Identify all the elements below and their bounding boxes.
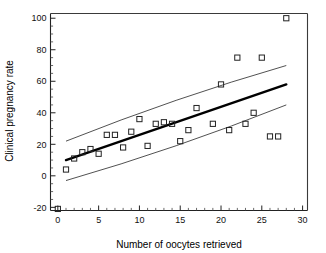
y-tick-label: 0 xyxy=(41,171,46,181)
x-tick-label: 0 xyxy=(55,215,60,225)
x-tick-label: 20 xyxy=(216,215,226,225)
y-axis-title: Clinical pregnancy rate xyxy=(4,60,15,162)
y-tick-label: -20 xyxy=(33,203,46,213)
y-tick-label: 20 xyxy=(36,140,46,150)
x-axis-title: Number of oocytes retrieved xyxy=(116,239,242,250)
scatter-plot-svg: 051015202530 -20020406080100 Number of o… xyxy=(0,0,326,253)
chart-figure: 051015202530 -20020406080100 Number of o… xyxy=(0,0,326,253)
x-tick-label: 25 xyxy=(257,215,267,225)
y-tick-label: 100 xyxy=(31,13,46,23)
y-tick-label: 40 xyxy=(36,108,46,118)
x-tick-label: 30 xyxy=(298,215,308,225)
x-tick-label: 15 xyxy=(175,215,185,225)
y-tick-label: 60 xyxy=(36,76,46,86)
x-tick-label: 5 xyxy=(96,215,101,225)
x-tick-label: 10 xyxy=(134,215,144,225)
y-tick-label: 80 xyxy=(36,45,46,55)
